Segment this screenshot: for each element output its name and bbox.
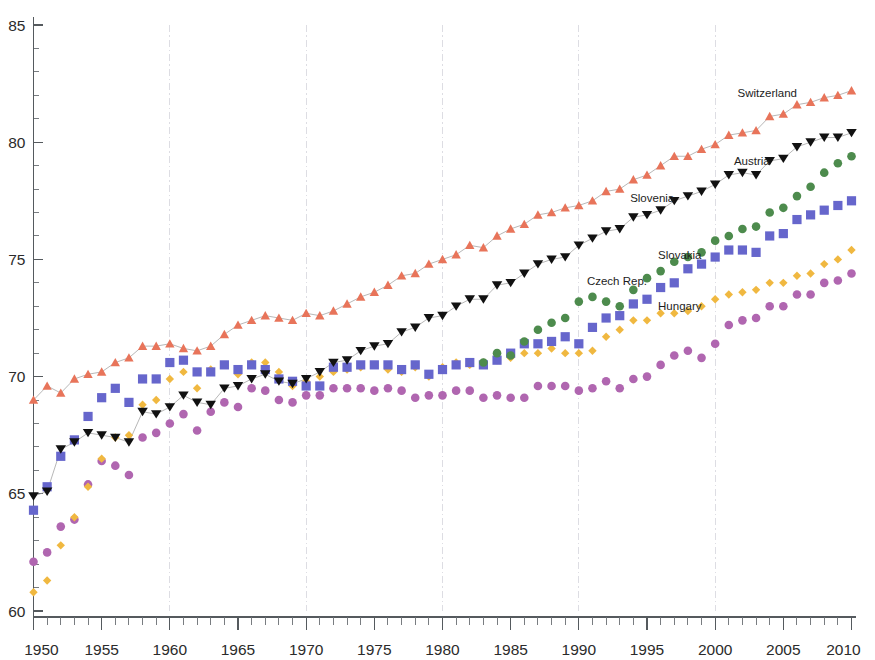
marker-czech-rep-1966: [247, 360, 256, 369]
x-axis-label-2000: 2000: [698, 641, 733, 658]
marker-slovakia-2005: [779, 279, 787, 287]
marker-austria-1975: [369, 342, 380, 350]
marker-slovakia-1991: [588, 347, 596, 355]
marker-austria-1998: [683, 192, 694, 200]
marker-hungary-1971: [316, 391, 325, 400]
marker-slovakia-2007: [806, 269, 814, 277]
marker-czech-rep-1989: [561, 332, 570, 341]
marker-czech-rep-2010: [847, 196, 856, 205]
marker-czech-rep-1998: [683, 264, 692, 273]
marker-switzerland-1967: [261, 311, 270, 319]
marker-slovakia-1990: [575, 349, 583, 357]
marker-slovakia-2000: [711, 295, 719, 303]
marker-switzerland-1995: [642, 170, 651, 178]
marker-czech-rep-1990: [574, 339, 583, 348]
marker-switzerland-1975: [370, 288, 379, 296]
marker-slovenia-1986: [520, 337, 529, 346]
marker-austria-1971: [315, 368, 326, 376]
marker-czech-rep-1954: [83, 412, 92, 421]
x-axis-label-1980: 1980: [425, 641, 460, 658]
marker-slovenia-2000: [711, 236, 720, 245]
marker-hungary-2006: [793, 290, 802, 299]
x-axis-ticks: [34, 617, 852, 630]
marker-czech-rep-2001: [724, 245, 733, 254]
marker-czech-rep-1993: [615, 311, 624, 320]
marker-czech-rep-1978: [411, 360, 420, 369]
marker-slovakia-2006: [793, 272, 801, 280]
marker-hungary-1990: [575, 386, 584, 395]
marker-czech-rep-2002: [738, 245, 747, 254]
marker-czech-rep-1979: [424, 370, 433, 379]
marker-hungary-1991: [588, 384, 597, 393]
marker-hungary-1996: [656, 361, 665, 370]
marker-austria-1991: [587, 234, 598, 242]
series-label-switzerland: Switzerland: [738, 87, 797, 99]
marker-switzerland-1979: [424, 259, 433, 267]
marker-hungary-1959: [152, 429, 161, 438]
series-label-czech-rep: Czech Rep.: [587, 275, 647, 287]
marker-czech-rep-1956: [111, 384, 120, 393]
marker-switzerland-1985: [506, 224, 515, 232]
marker-hungary-1965: [234, 403, 243, 412]
marker-czech-rep-1977: [397, 365, 406, 374]
marker-switzerland-1973: [342, 299, 351, 307]
marker-slovenia-2004: [765, 208, 774, 217]
chart-canvas: 1950195519601965197019751980198519901995…: [0, 0, 875, 660]
marker-austria-1986: [519, 270, 530, 278]
marker-austria-2010: [846, 129, 857, 137]
marker-czech-rep-1981: [452, 360, 461, 369]
marker-slovenia-1992: [602, 297, 611, 306]
marker-hungary-1982: [465, 386, 474, 395]
marker-czech-rep-1971: [315, 381, 324, 390]
marker-austria-2000: [710, 180, 721, 188]
marker-czech-rep-1959: [152, 374, 161, 383]
marker-czech-rep-1987: [533, 339, 542, 348]
marker-slovakia-1960: [166, 375, 174, 383]
marker-slovakia-1961: [179, 368, 187, 376]
marker-switzerland-1986: [520, 220, 529, 228]
x-axis-label-1955: 1955: [84, 641, 118, 658]
marker-switzerland-1980: [438, 255, 447, 263]
marker-slovenia-1989: [561, 314, 570, 323]
x-axis-label-1960: 1960: [153, 641, 188, 658]
marker-czech-rep-1991: [588, 323, 597, 332]
marker-slovakia-1950: [29, 588, 37, 596]
marker-czech-rep-1975: [370, 360, 379, 369]
marker-czech-rep-2004: [765, 231, 774, 240]
x-axis-label-2010: 2010: [826, 641, 861, 658]
marker-austria-1951: [42, 488, 53, 496]
series-label-hungary: Hungary: [658, 300, 702, 312]
marker-hungary-1969: [288, 398, 297, 407]
marker-slovenia-1991: [588, 293, 597, 302]
marker-slovakia-1957: [125, 431, 133, 439]
marker-slovenia-2001: [725, 232, 734, 241]
marker-czech-rep-1958: [138, 374, 147, 383]
marker-czech-rep-1974: [356, 360, 365, 369]
marker-slovenia-1988: [547, 318, 556, 327]
marker-czech-rep-2007: [806, 210, 815, 219]
marker-slovenia-2005: [779, 204, 788, 213]
marker-austria-1978: [410, 323, 421, 331]
marker-hungary-2003: [752, 314, 761, 323]
marker-hungary-1967: [261, 386, 270, 395]
x-axis-tick-labels: 1950195519601965197019751980198519901995…: [24, 641, 861, 658]
y-axis-label-65: 65: [8, 485, 25, 502]
marker-hungary-2005: [779, 302, 788, 311]
marker-hungary-1992: [602, 377, 611, 386]
marker-switzerland-1981: [451, 250, 460, 258]
marker-slovakia-1952: [57, 541, 65, 549]
marker-switzerland-1965: [233, 320, 242, 328]
marker-switzerland-1966: [247, 316, 256, 324]
marker-slovenia-1985: [506, 351, 515, 360]
marker-czech-rep-1994: [629, 299, 638, 308]
marker-slovakia-2008: [820, 260, 828, 268]
marker-hungary-2009: [834, 276, 843, 285]
marker-czech-rep-1962: [193, 367, 202, 376]
marker-austria-1957: [124, 438, 135, 446]
x-axis-label-1970: 1970: [289, 641, 324, 658]
marker-hungary-1957: [125, 471, 134, 480]
marker-czech-rep-1964: [220, 360, 229, 369]
marker-czech-rep-1955: [97, 393, 106, 402]
marker-switzerland-1953: [70, 374, 79, 382]
marker-hungary-1961: [179, 410, 188, 419]
